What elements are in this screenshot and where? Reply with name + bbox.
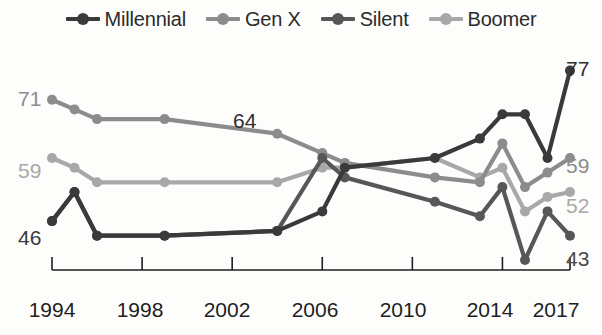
legend-item-gen-x[interactable]: Gen X — [206, 8, 301, 31]
value-label-left-boomer: 59 — [18, 160, 41, 181]
data-point — [317, 206, 327, 216]
data-point — [160, 114, 170, 124]
legend-label: Silent — [360, 8, 409, 31]
data-point — [92, 231, 102, 241]
data-point — [92, 114, 102, 124]
line-dot-marker-icon — [429, 12, 463, 26]
line-dot-marker-icon — [206, 12, 240, 26]
series-line — [52, 71, 570, 236]
legend-item-silent[interactable]: Silent — [321, 8, 409, 31]
xtick-label-2014: 2014 — [467, 298, 514, 322]
data-point — [543, 153, 553, 163]
xtick-label-1998: 1998 — [117, 298, 164, 322]
data-point — [430, 197, 440, 207]
value-label-right-boomer: 52 — [566, 195, 589, 216]
chart-figure: Millennial Gen X Silent Boomer — [0, 0, 602, 335]
legend-label: Millennial — [105, 8, 186, 31]
data-point — [497, 109, 507, 119]
data-point — [272, 129, 282, 139]
xtick-label-2017: 2017 — [533, 298, 580, 322]
data-point — [520, 182, 530, 192]
value-label-right-silent: 43 — [566, 248, 589, 269]
value-label-left-genx: 71 — [18, 88, 41, 109]
data-point — [430, 172, 440, 182]
data-point — [543, 192, 553, 202]
data-point — [47, 95, 57, 105]
data-point — [475, 134, 485, 144]
xtick-label-2002: 2002 — [204, 298, 251, 322]
legend-item-boomer[interactable]: Boomer — [429, 8, 537, 31]
data-point — [497, 163, 507, 173]
data-point — [70, 104, 80, 114]
data-point — [565, 231, 575, 241]
series-boomer — [47, 153, 575, 216]
legend-label: Gen X — [245, 8, 301, 31]
data-point — [317, 153, 327, 163]
legend-item-millennial[interactable]: Millennial — [66, 8, 186, 31]
value-label-right-millennial: 77 — [566, 58, 589, 79]
xtick-label-1994: 1994 — [29, 298, 76, 322]
data-point — [520, 206, 530, 216]
data-point — [543, 206, 553, 216]
data-point — [475, 177, 485, 187]
data-point — [497, 182, 507, 192]
data-point — [272, 226, 282, 236]
data-point — [497, 138, 507, 148]
data-point — [520, 109, 530, 119]
value-label-left-millennial: 46 — [18, 227, 41, 248]
data-point — [543, 168, 553, 178]
data-point — [340, 163, 350, 173]
data-point — [70, 187, 80, 197]
line-dot-marker-icon — [321, 12, 355, 26]
data-point — [160, 177, 170, 187]
xtick-label-2010: 2010 — [380, 298, 427, 322]
x-axis — [52, 257, 570, 270]
data-point — [70, 163, 80, 173]
line-chart-svg — [0, 38, 602, 335]
data-point — [430, 153, 440, 163]
data-point — [47, 153, 57, 163]
value-label-inline-silent: 64 — [233, 110, 256, 131]
value-label-right-genx: 59 — [566, 155, 589, 176]
data-point — [272, 177, 282, 187]
chart-legend: Millennial Gen X Silent Boomer — [0, 0, 602, 38]
data-point — [47, 216, 57, 226]
line-dot-marker-icon — [66, 12, 100, 26]
series-layer — [47, 66, 575, 265]
data-point — [160, 231, 170, 241]
data-point — [475, 211, 485, 221]
data-point — [92, 177, 102, 187]
legend-label: Boomer — [468, 8, 537, 31]
xtick-label-2006: 2006 — [292, 298, 339, 322]
data-point — [520, 255, 530, 265]
plot-area — [0, 38, 602, 335]
